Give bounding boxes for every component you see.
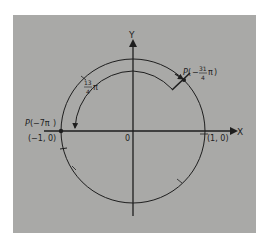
origin-label: 0	[125, 134, 130, 143]
circle-tick-mark	[60, 148, 67, 149]
upper-point-paren-close: )	[214, 68, 217, 77]
left-point-paren-close: )	[53, 119, 56, 128]
left-point-coords: (−1, 0)	[28, 134, 56, 143]
right-point-coords: (1, 0)	[207, 134, 229, 143]
upper-point-pi: π	[208, 68, 213, 77]
arc-label-numerator: 13	[84, 79, 92, 86]
circle-tick-mark	[177, 179, 182, 183]
upper-point-arrow	[175, 74, 183, 79]
x-axis-label: X	[237, 127, 243, 137]
upper-point-sign: −	[192, 68, 199, 77]
upper-point-paren-open: (	[188, 68, 191, 77]
upper-point	[182, 78, 186, 82]
arc-label-denominator: 4	[86, 88, 90, 95]
upper-point-numerator: 31	[199, 65, 207, 72]
y-axis-label: Y	[128, 30, 135, 40]
arc-label-pi: π	[93, 83, 98, 92]
upper-point-denominator: 4	[201, 74, 205, 81]
unit-circle-diagram: Y X 0 P ( −7π ) (−1, 0) (1, 0) P ( − 31 …	[0, 0, 269, 242]
left-point-arg: −7π	[33, 119, 50, 128]
left-point	[59, 129, 63, 133]
